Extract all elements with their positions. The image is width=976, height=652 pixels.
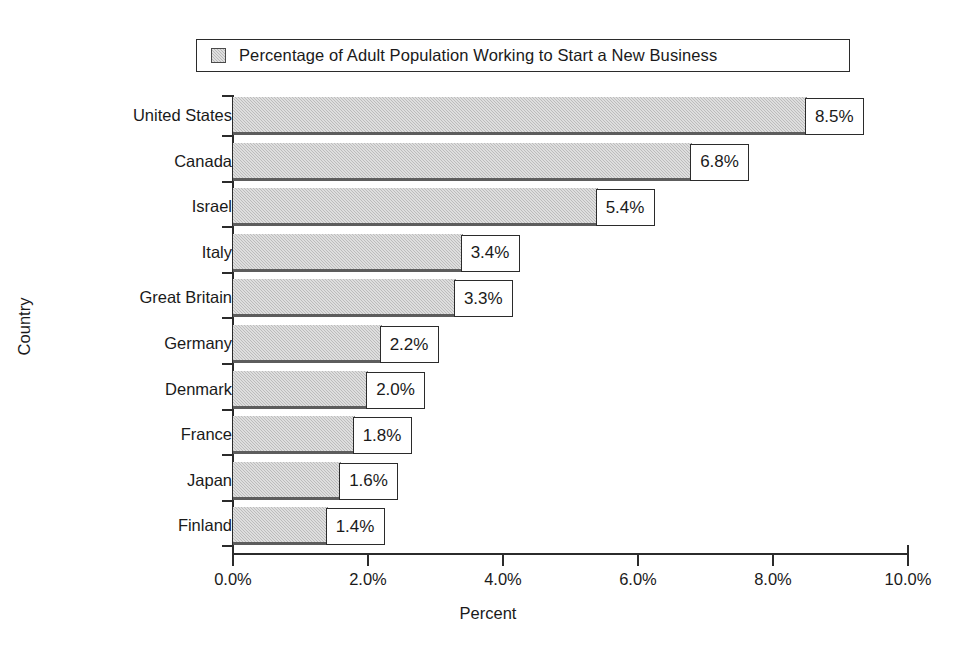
bar-denmark[interactable] (233, 371, 368, 409)
y-axis-label: Italy (42, 243, 232, 262)
bar-row: 2.2% (233, 325, 908, 363)
y-axis-label: Japan (42, 471, 232, 490)
bar-france[interactable] (233, 416, 355, 454)
plot-area: 8.5%6.8%5.4%3.4%3.3%2.2%2.0%1.8%1.6%1.4% (233, 97, 908, 553)
y-axis-label: Germany (42, 334, 232, 353)
bar-canada[interactable] (233, 143, 692, 181)
y-axis-label: Canada (42, 152, 232, 171)
y-axis-tick (222, 226, 233, 228)
x-axis-tick (367, 555, 369, 566)
x-axis-tick-label: 4.0% (448, 570, 558, 589)
bar-swatch-icon (211, 48, 226, 63)
x-axis-tick (232, 555, 234, 566)
bar-value-label: 3.4% (461, 235, 520, 272)
bar-chart: Percentage of Adult Population Working t… (0, 0, 976, 652)
bar-finland[interactable] (233, 507, 328, 545)
bar-value-label: 1.8% (353, 417, 412, 454)
bar-row: 8.5% (233, 97, 908, 135)
legend-label: Percentage of Adult Population Working t… (239, 46, 717, 65)
bar-row: 6.8% (233, 143, 908, 181)
bar-row: 3.4% (233, 234, 908, 272)
x-axis-tick (637, 555, 639, 566)
x-axis-tick-label: 2.0% (313, 570, 423, 589)
y-axis-label: Denmark (42, 380, 232, 399)
bar-row: 5.4% (233, 188, 908, 226)
bar-japan[interactable] (233, 462, 341, 500)
chart-legend: Percentage of Adult Population Working t… (196, 39, 850, 72)
y-axis-tick (222, 454, 233, 456)
bar-value-label: 1.6% (339, 463, 398, 500)
x-axis-tick-label: 8.0% (718, 570, 828, 589)
x-axis-tick (907, 555, 909, 566)
bar-value-label: 8.5% (805, 98, 864, 135)
bar-row: 1.4% (233, 507, 908, 545)
bar-row: 1.6% (233, 462, 908, 500)
y-axis-tick (222, 409, 233, 411)
y-axis-tick (222, 95, 233, 97)
bar-israel[interactable] (233, 188, 598, 226)
bar-row: 1.8% (233, 416, 908, 454)
y-axis-tick (222, 317, 233, 319)
bar-italy[interactable] (233, 234, 463, 272)
bar-value-label: 5.4% (596, 189, 655, 226)
bar-great-britain[interactable] (233, 279, 456, 317)
y-axis-label: France (42, 425, 232, 444)
bar-value-label: 2.0% (366, 372, 425, 409)
y-axis-tick (222, 272, 233, 274)
x-axis-tick-label: 0.0% (178, 570, 288, 589)
y-axis-label: Finland (42, 516, 232, 535)
x-axis-line (232, 553, 909, 555)
y-axis-label: United States (42, 106, 232, 125)
bar-value-label: 6.8% (690, 144, 749, 181)
y-axis-label: Israel (42, 197, 232, 216)
y-axis-title: Country (15, 282, 34, 372)
x-axis-tick (772, 555, 774, 566)
bar-value-label: 2.2% (380, 326, 439, 363)
bar-row: 2.0% (233, 371, 908, 409)
bar-united-states[interactable] (233, 97, 807, 135)
y-axis-tick (222, 500, 233, 502)
bar-value-label: 1.4% (326, 508, 385, 545)
y-axis-tick (222, 135, 233, 137)
x-axis-tick-label: 10.0% (853, 570, 963, 589)
y-axis-labels: United StatesCanadaIsraelItalyGreat Brit… (36, 97, 232, 553)
bar-value-label: 3.3% (454, 280, 513, 317)
y-axis-tick (222, 181, 233, 183)
bar-row: 3.3% (233, 279, 908, 317)
y-axis-label: Great Britain (42, 288, 232, 307)
y-axis-tick (222, 545, 233, 547)
bar-germany[interactable] (233, 325, 382, 363)
x-axis-title: Percent (0, 604, 976, 623)
x-axis-tick-label: 6.0% (583, 570, 693, 589)
y-axis-tick (222, 363, 233, 365)
x-axis-tick (502, 555, 504, 566)
